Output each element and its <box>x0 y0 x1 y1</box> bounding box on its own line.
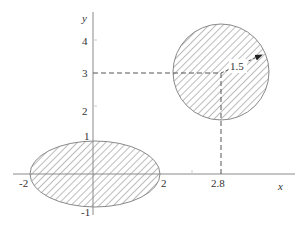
y-tick-label-4: 4 <box>82 35 88 47</box>
x-axis-label: x <box>277 180 283 192</box>
y-tick-label-2: 2 <box>82 105 88 117</box>
y-tick-label-1: 1 <box>84 130 90 142</box>
diagram-canvas: 1.5 y x 4 3 2 1 -1 -2 2 2.8 <box>0 0 306 225</box>
radius-label: 1.5 <box>230 60 244 72</box>
x-tick-label-2-8: 2.8 <box>211 177 225 189</box>
x-tick-label-neg2: -2 <box>19 177 28 189</box>
y-axis-label: y <box>81 12 87 24</box>
x-tick-label-2: 2 <box>161 177 167 189</box>
y-tick-label-3: 3 <box>82 67 88 79</box>
y-tick-label-neg1: -1 <box>81 206 90 218</box>
